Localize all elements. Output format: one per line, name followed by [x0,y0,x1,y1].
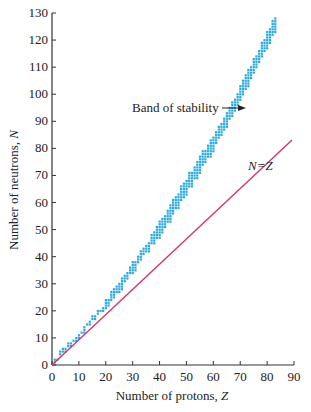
y-tick-label: 50 [35,222,48,237]
nuclide-point [218,131,220,133]
nuclide-point [271,23,273,25]
nuclide-point [153,234,155,236]
y-axis-title: Number of neutrons, N [6,129,21,250]
nuclide-point [261,42,263,44]
nuclide-point [247,74,249,76]
nuclide-point [172,202,174,204]
nuclide-point [218,128,220,130]
nuclide-point [199,164,201,166]
nuclide-point [188,183,190,185]
nuclide-point [167,218,169,220]
nuclide-point [223,118,225,120]
nuclide-point [194,172,196,174]
nuclide-point [156,234,158,236]
nuclide-point [263,44,265,46]
nuclide-point [237,99,239,101]
nuclide-point [129,272,131,274]
nuclide-point [266,44,268,46]
nuclide-point [161,223,163,225]
nuclide-point [180,191,182,193]
nuclide-point [237,96,239,98]
nuclide-point [167,215,169,217]
nuclide-point [191,172,193,174]
nuclide-point [145,245,147,247]
nuclide-point [226,120,228,122]
nuclide-point [113,291,115,293]
x-tick-label: 0 [49,369,56,384]
nuclide-point [228,115,230,117]
nuclide-point [105,302,107,304]
nuclide-point [180,188,182,190]
nuclide-point [132,269,134,271]
n-equals-z-label: N=Z [247,158,273,173]
nuclide-point [271,26,273,28]
nuclide-point [183,193,185,195]
nuclide-point [191,174,193,176]
nuclide-point [220,131,222,133]
nuclide-point [250,69,252,71]
nuclide-point [132,261,134,263]
nuclide-point [274,17,276,19]
nuclide-point [89,321,91,323]
x-tick-label: 80 [261,369,274,384]
nuclide-point [261,44,263,46]
nuclide-point [266,36,268,38]
y-tick-label: 20 [35,303,48,318]
nuclide-point [234,109,236,111]
nuclide-point [121,280,123,282]
nuclide-point [255,66,257,68]
nuclide-point [132,264,134,266]
nuclide-point [220,128,222,130]
nuclide-point [148,242,150,244]
nuclide-point [250,66,252,68]
nuclide-point [245,85,247,87]
nuclide-point [67,342,69,344]
nuclide-point [116,288,118,290]
nuclide-point [89,323,91,325]
y-tick-label: 80 [35,140,48,155]
nuclide-point [258,53,260,55]
nuclide-point [242,91,244,93]
nuclide-point [124,277,126,279]
x-tick-label: 50 [180,369,193,384]
nuclide-point [121,277,123,279]
nuclide-point [196,164,198,166]
nuclide-point [183,183,185,185]
nuclide-point [234,99,236,101]
nuclide-point [156,229,158,231]
nuclide-point [183,185,185,187]
nuclide-point [64,348,66,350]
nuclide-point [212,150,214,152]
nuclide-point [140,250,142,252]
nuclide-point [113,296,115,298]
nuclide-point [83,329,85,331]
nuclide-point [134,264,136,266]
nuclide-point [121,285,123,287]
y-tick-label: 30 [35,276,48,291]
nuclide-point [105,299,107,301]
nuclide-point [172,204,174,206]
nuclide-point [177,202,179,204]
nuclide-point [188,180,190,182]
nuclide-point [161,226,163,228]
nuclide-point [255,58,257,60]
nuclide-point [169,220,171,222]
x-tick-label: 30 [126,369,139,384]
nuclide-point [261,47,263,49]
nuclide-point [118,291,120,293]
nuclide-point [73,340,75,342]
nuclide-point [258,55,260,57]
nuclide-point [226,115,228,117]
nuclide-point [207,150,209,152]
nuclide-point [207,145,209,147]
nuclide-point [137,258,139,260]
nuclide-point [258,50,260,52]
nuclide-point [212,147,214,149]
nuclide-point [105,307,107,309]
nuclide-point [124,275,126,277]
y-tick-label: 130 [29,5,49,20]
nuclide-point [156,231,158,233]
nuclide-point [199,161,201,163]
nuclide-point [204,161,206,163]
nuclide-point [196,177,198,179]
